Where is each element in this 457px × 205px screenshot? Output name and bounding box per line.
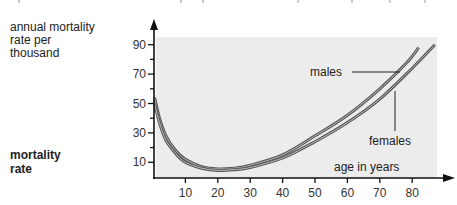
y-tick-label: 70 [133, 67, 147, 81]
y-tick-label: 10 [133, 155, 147, 169]
x-axis-label: age in years [334, 160, 399, 174]
x-tick-label: 40 [276, 186, 290, 200]
x-axis-arrowhead-icon [443, 174, 455, 182]
x-tick-label: 20 [211, 186, 225, 200]
y-ticks: 1030507090 [133, 38, 154, 170]
x-tick-label: 50 [308, 186, 322, 200]
y-tick-label: 30 [133, 126, 147, 140]
y-tick-label: 90 [133, 38, 147, 52]
males-annotation: males [310, 65, 342, 79]
x-tick-label: 70 [373, 186, 387, 200]
x-tick-label: 10 [179, 186, 193, 200]
x-tick-label: 30 [244, 186, 258, 200]
x-tick-label: 60 [341, 186, 355, 200]
mortality-chart: males females age in years 1030507090 10… [0, 0, 457, 205]
y-tick-label: 50 [133, 97, 147, 111]
x-tick-label: 80 [406, 186, 420, 200]
y-axis-arrowhead-icon [150, 19, 158, 30]
females-annotation: females [369, 134, 411, 148]
x-ticks: 1020304050607080 [179, 178, 419, 200]
